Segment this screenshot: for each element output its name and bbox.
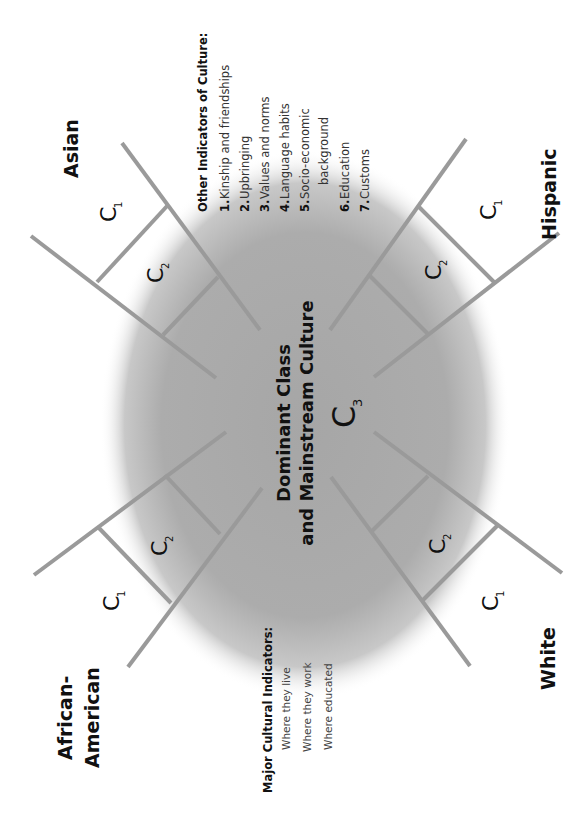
svg-text:Kinship and friendships: Kinship and friendships xyxy=(218,65,232,199)
svg-text:7.: 7. xyxy=(358,200,372,212)
svg-text:Socio-economic: Socio-economic xyxy=(298,108,312,199)
major-indicators-title: Major Cultural Indicators: xyxy=(261,627,275,793)
culture-ladder-diagram: Asian Hispanic African- American White C… xyxy=(0,0,576,839)
other-indicator-item: 6. Education xyxy=(338,142,352,212)
major-indicator-item: Where they work xyxy=(301,662,313,752)
other-indicator-item: 4. Language habits xyxy=(278,103,292,212)
svg-text:1.: 1. xyxy=(218,200,232,212)
other-indicator-item: 3. Values and norms xyxy=(258,96,272,212)
svg-text:6.: 6. xyxy=(338,200,352,212)
svg-text:2: 2 xyxy=(438,260,449,266)
other-indicators-title: Other Indicators of Culture: xyxy=(196,33,210,212)
svg-text:2: 2 xyxy=(164,536,175,542)
svg-text:Upbringing: Upbringing xyxy=(238,136,252,199)
svg-text:1: 1 xyxy=(493,200,504,206)
other-indicators-panel: Other Indicators of Culture: 1. Kinship … xyxy=(196,33,372,212)
african-american-c1-label: C 1 xyxy=(99,591,127,611)
major-indicator-item: Where they live xyxy=(280,667,292,750)
svg-text:Language habits: Language habits xyxy=(278,103,292,199)
other-indicator-item: 5. Socio-economic xyxy=(298,108,312,212)
svg-text:3: 3 xyxy=(350,399,365,407)
other-indicator-item-continuation: background xyxy=(317,117,331,185)
other-indicator-item: 1. Kinship and friendships xyxy=(218,65,232,212)
other-indicator-item: 7. Customs xyxy=(358,149,372,212)
svg-text:2: 2 xyxy=(160,263,171,269)
svg-text:2.: 2. xyxy=(238,200,252,212)
svg-text:2: 2 xyxy=(442,534,453,540)
svg-text:Education: Education xyxy=(338,142,352,199)
group-label-hispanic: Hispanic xyxy=(538,149,560,240)
center-title-line1: Dominant Class xyxy=(273,344,294,502)
group-label-african-american-line1: African- xyxy=(54,676,76,760)
hispanic-c1-label: C 1 xyxy=(476,200,504,220)
svg-text:C: C xyxy=(325,406,363,428)
center-title-line2: and Mainstream Culture xyxy=(296,300,317,545)
major-indicator-item: Where educated xyxy=(322,663,334,750)
svg-text:4.: 4. xyxy=(278,200,292,212)
group-label-white: White xyxy=(537,627,559,690)
group-label-african-american-line2: American xyxy=(81,667,103,768)
asian-c1-label: C 1 xyxy=(96,202,124,222)
svg-text:1: 1 xyxy=(116,591,127,597)
svg-text:background: background xyxy=(317,117,331,185)
svg-text:5.: 5. xyxy=(298,200,312,212)
white-c1-label: C 1 xyxy=(478,591,506,611)
other-indicator-item: 2. Upbringing xyxy=(238,136,252,212)
svg-text:1: 1 xyxy=(113,202,124,208)
svg-text:1: 1 xyxy=(495,591,506,597)
svg-text:3.: 3. xyxy=(258,200,272,212)
svg-text:Customs: Customs xyxy=(358,149,372,199)
group-label-asian: Asian xyxy=(60,119,82,178)
svg-text:Values and norms: Values and norms xyxy=(258,96,272,199)
